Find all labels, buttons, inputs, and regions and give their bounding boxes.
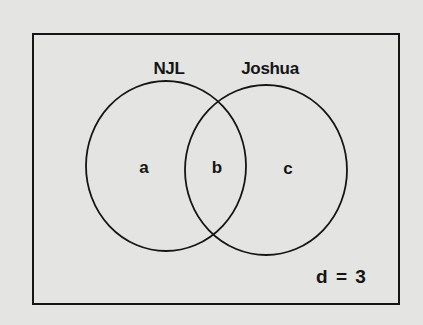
universe-label-d: d = 3 [316, 267, 366, 286]
set-label-joshua: Joshua [241, 60, 299, 77]
set-label-njl: NJL [153, 60, 184, 77]
venn-diagram: NJL Joshua a b c d = 3 [0, 0, 423, 325]
set-circle-joshua [185, 85, 347, 255]
region-label-a: a [139, 159, 148, 176]
region-label-b: b [212, 159, 222, 176]
region-label-c: c [283, 160, 292, 177]
